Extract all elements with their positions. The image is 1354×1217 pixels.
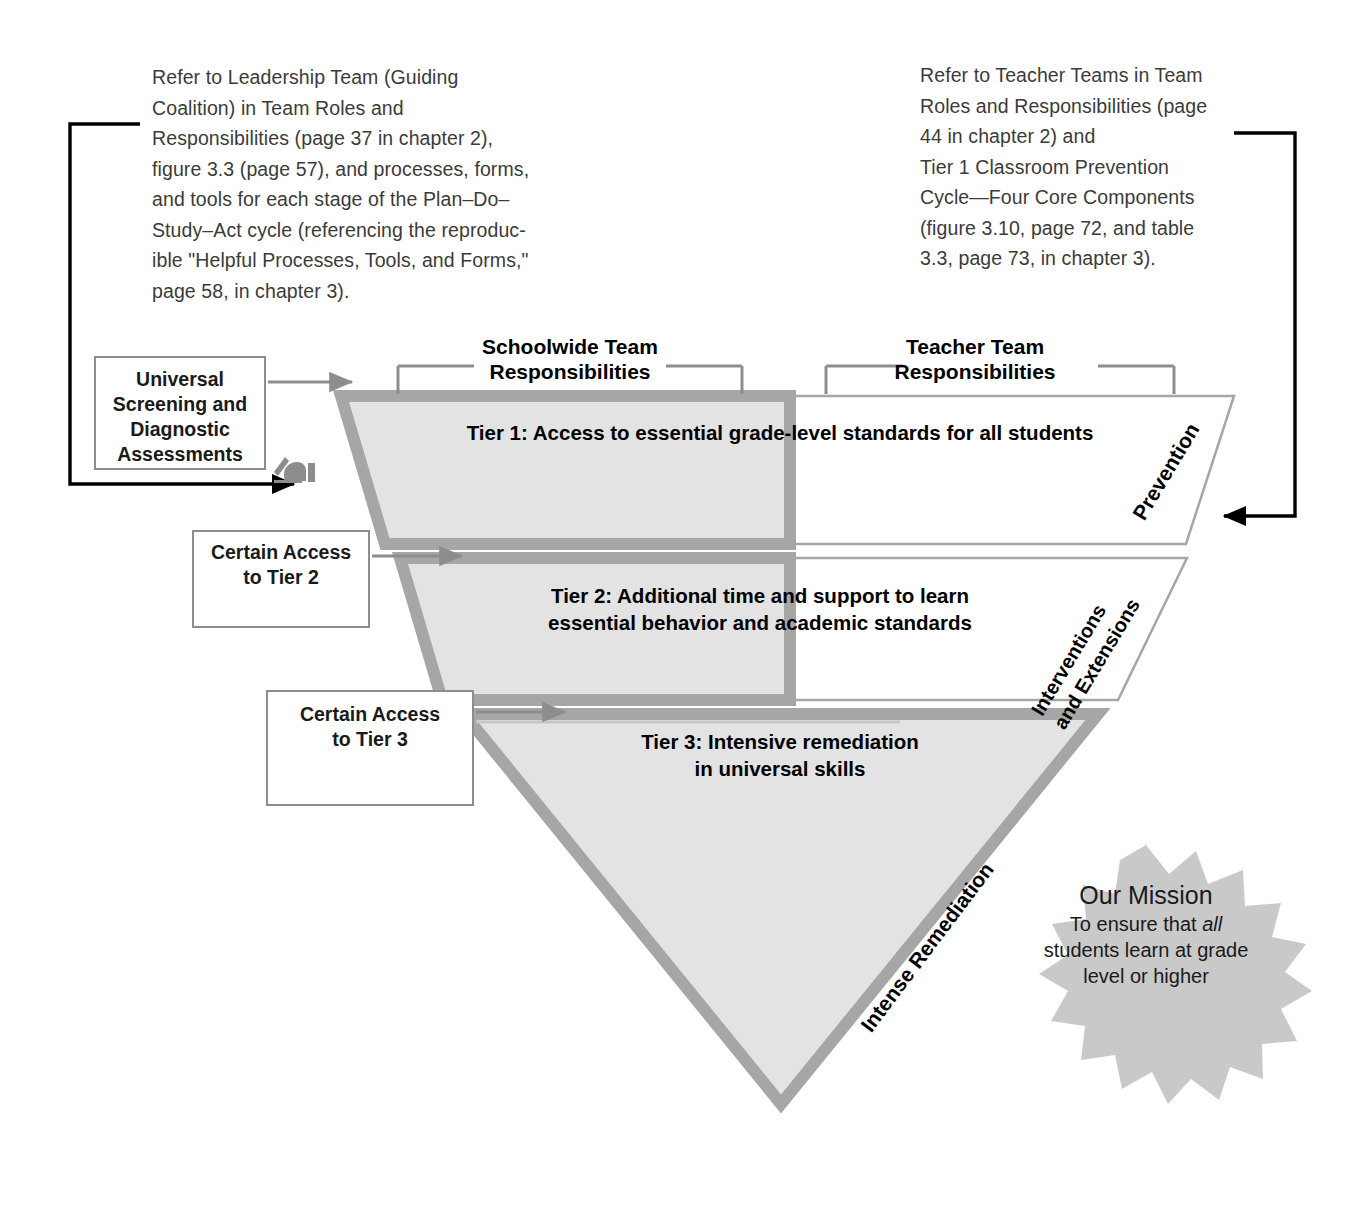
box-certain-access-tier2-label: Certain Access to Tier 2 — [211, 541, 351, 588]
header-schoolwide-team-responsibilities: Schoolwide Team Responsibilities — [430, 334, 710, 384]
mission-line1: To ensure that — [1070, 913, 1202, 935]
caption-leadership-team: Refer to Leadership Team (Guiding Coalit… — [152, 62, 582, 306]
header-teacher-team-responsibilities: Teacher Team Responsibilities — [845, 334, 1105, 384]
box-certain-access-tier2[interactable]: Certain Access to Tier 2 — [192, 530, 370, 628]
tier1-description: Tier 1: Access to essential grade-level … — [370, 419, 1190, 446]
tier2-description: Tier 2: Additional time and support to l… — [430, 582, 1090, 636]
caption-teacher-teams: Refer to Teacher Teams in Team Roles and… — [920, 60, 1280, 274]
mission-line3: level or higher — [1083, 965, 1209, 987]
mission-line2: students learn at grade — [1044, 939, 1249, 961]
box-universal-screening-label: Universal Screening and Diagnostic Asses… — [113, 368, 247, 465]
mission-emphasis: all — [1202, 913, 1222, 935]
figure-canvas: Refer to Leadership Team (Guiding Coalit… — [0, 0, 1354, 1217]
box-certain-access-tier3[interactable]: Certain Access to Tier 3 — [266, 690, 474, 806]
mission-statement: Our Mission To ensure that allstudents l… — [1020, 880, 1272, 989]
tier3-description: Tier 3: Intensive remediation in univers… — [500, 728, 1060, 782]
mission-title: Our Mission — [1020, 880, 1272, 910]
writing-hand-icon — [274, 457, 315, 483]
box-universal-screening[interactable]: Universal Screening and Diagnostic Asses… — [94, 356, 266, 470]
mission-body: To ensure that allstudents learn at grad… — [1020, 911, 1272, 989]
box-certain-access-tier3-label: Certain Access to Tier 3 — [300, 703, 440, 750]
